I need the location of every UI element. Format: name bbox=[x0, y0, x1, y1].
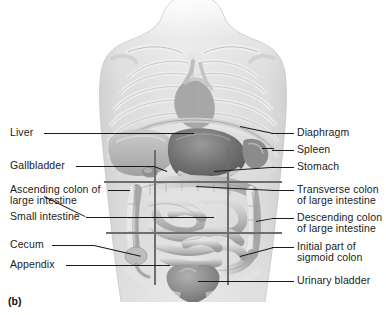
leader-diaphragm-h bbox=[272, 133, 294, 134]
label-appendix: Appendix bbox=[10, 259, 55, 271]
label-sigmoid-colon-line2: sigmoid colon bbox=[297, 252, 363, 264]
label-descending-colon-line2: of large intestine bbox=[297, 223, 376, 235]
leader-urinary-bladder-h bbox=[272, 281, 294, 282]
leader-appendix bbox=[66, 265, 170, 266]
body-silhouette bbox=[90, 0, 296, 315]
figure-caption: (b) bbox=[8, 295, 21, 307]
label-urinary-bladder: Urinary bladder bbox=[297, 275, 370, 287]
leader-spleen-d bbox=[262, 148, 274, 149]
leader-gallbladder-h bbox=[76, 166, 154, 167]
leader-transverse-colon-h bbox=[272, 190, 294, 191]
leader-stomach-h bbox=[272, 167, 294, 168]
leader-spleen-h bbox=[272, 150, 294, 151]
leader-liver bbox=[44, 133, 194, 134]
leader-ascending-colon-h bbox=[108, 190, 130, 191]
descending-colon-organ bbox=[248, 192, 260, 254]
ascending-colon-organ bbox=[128, 190, 140, 250]
label-small-intestine: Small intestine bbox=[10, 211, 80, 223]
leader-cecum-h bbox=[52, 245, 94, 246]
grid-line-horizontal-upper bbox=[104, 181, 282, 183]
label-liver: Liver bbox=[10, 127, 33, 139]
torso-anatomy-illustration bbox=[0, 0, 386, 315]
label-diaphragm: Diaphragm bbox=[297, 127, 349, 139]
gallbladder-organ bbox=[142, 167, 158, 178]
label-cecum: Cecum bbox=[10, 239, 44, 251]
label-transverse-colon-line2: of large intestine bbox=[297, 195, 376, 207]
label-ascending-colon-line2: large intestine bbox=[10, 195, 77, 207]
label-spleen: Spleen bbox=[297, 144, 330, 156]
label-stomach: Stomach bbox=[297, 161, 339, 173]
label-gallbladder: Gallbladder bbox=[10, 160, 65, 172]
grid-line-horizontal-lower bbox=[106, 232, 282, 234]
leader-urinary-bladder-d bbox=[198, 281, 274, 282]
cecum-organ bbox=[125, 247, 147, 265]
leader-small-intestine bbox=[86, 217, 214, 218]
leader-sigmoid-colon-h bbox=[272, 247, 294, 248]
figure-panel: Liver Gallbladder Ascending colon of lar… bbox=[0, 0, 386, 315]
leader-descending-colon-h bbox=[272, 218, 294, 219]
